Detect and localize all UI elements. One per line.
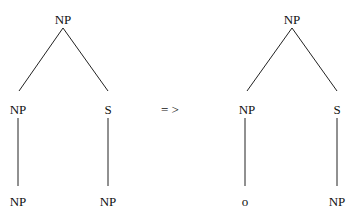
right-edge-root-np (247, 28, 292, 91)
right-edge-root-s (292, 28, 337, 91)
right-child-np-label: NP (239, 102, 256, 117)
right-leaf-np-label: NP (329, 194, 346, 209)
left-leaf-np-label: NP (10, 194, 27, 209)
left-tree: NP NP S NP NP (10, 12, 117, 209)
right-tree: NP NP S o NP (239, 12, 346, 209)
right-child-s-label: S (333, 102, 340, 117)
transform-arrow: = > (161, 102, 179, 117)
left-leaf-np2-label: NP (100, 194, 117, 209)
left-root-label: NP (55, 12, 72, 27)
left-child-s-label: S (104, 102, 111, 117)
tree-diagram: NP NP S NP NP = > NP NP S o NP (0, 0, 355, 211)
left-child-np-label: NP (10, 102, 27, 117)
left-edge-root-np (19, 28, 63, 91)
right-root-label: NP (284, 12, 301, 27)
left-edge-root-s (63, 28, 108, 91)
right-leaf-o-label: o (242, 194, 249, 209)
